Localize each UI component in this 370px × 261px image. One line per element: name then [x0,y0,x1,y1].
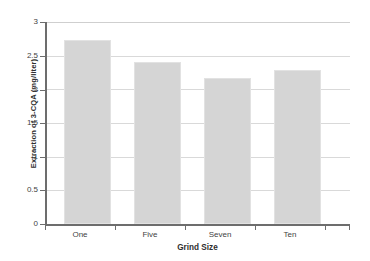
bar-ten [274,70,321,224]
x-tick-mark [115,225,116,230]
y-tick-label: 2.5 [12,52,38,60]
y-tick-label: 1 [12,153,38,161]
gridline [45,22,350,23]
x-tick-mark [325,225,326,230]
y-axis-title: Extraction of 3-CQA (mg/liter) [29,19,38,209]
x-tick-mark [45,225,46,230]
bar-one [64,40,111,224]
x-axis-title: Grind Size [45,243,350,252]
y-tick-label: 3 [12,18,38,26]
x-tick-mark [255,225,256,230]
x-category-label-seven: Seven [185,231,255,239]
plot-area [45,22,350,224]
y-tick-label: 0 [12,220,38,228]
y-tick-label: 0.5 [12,186,38,194]
y-axis-line [45,22,47,225]
x-tick-mark [185,225,186,230]
x-category-label-five: Five [115,231,185,239]
y-tick-label: 1.5 [12,119,38,127]
x-category-label-ten: Ten [255,231,325,239]
x-tick-mark [349,225,350,230]
bar-seven [204,78,251,224]
x-axis-line [45,224,350,226]
x-category-label-one: One [45,231,115,239]
bar-chart-figure: Extraction of 3-CQA (mg/liter) 0 0.5 1 1… [0,0,370,261]
bar-five [134,62,181,224]
y-tick-label: 2 [12,86,38,94]
